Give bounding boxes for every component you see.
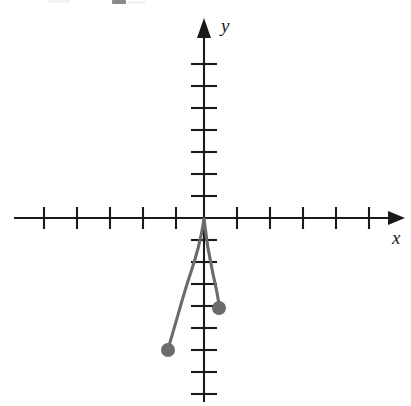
x-axis-label: x xyxy=(392,228,400,247)
coordinate-plane xyxy=(0,0,411,406)
x-axis xyxy=(14,211,405,225)
x-axis-arrowhead xyxy=(388,211,405,225)
left-endpoint-dot xyxy=(161,343,175,357)
y-axis-label: y xyxy=(221,16,229,35)
y-axis-arrowhead xyxy=(197,18,211,38)
y-axis xyxy=(197,18,211,402)
graph-figure: y x xyxy=(0,0,411,406)
right-endpoint-dot xyxy=(212,301,226,315)
